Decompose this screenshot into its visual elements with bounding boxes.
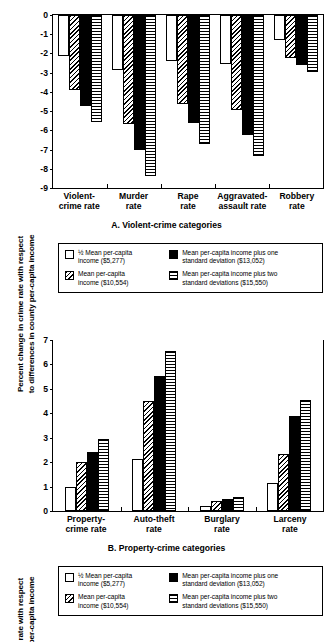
legend-label-line: income ($5,277) xyxy=(78,257,132,265)
bar-group xyxy=(269,15,323,188)
x-axis-category-labels-a: Violent-crime rateMurderrateRaperateAggr… xyxy=(52,191,324,211)
bar xyxy=(289,416,300,511)
legend-a: ½ Mean per-capitaincome ($5,277)Mean per… xyxy=(58,243,323,293)
bar-set xyxy=(107,15,161,176)
bar-group xyxy=(53,340,121,511)
group-separator-tick xyxy=(107,184,108,188)
category-label-line: Rape xyxy=(161,191,215,201)
category-label-line: crime rate xyxy=(52,524,120,534)
group-separator-tick xyxy=(121,507,122,511)
legend-item-mean: Mean per-capitaincome ($10,554) xyxy=(65,593,169,609)
category-label-line: crime rate xyxy=(52,201,106,211)
y-tick-label: 0 xyxy=(43,506,48,516)
legend-swatch-horizontal-hatch-icon xyxy=(169,271,178,280)
bar-set xyxy=(215,15,269,156)
bar xyxy=(80,15,91,106)
legend-swatch-horizontal-hatch-icon xyxy=(169,594,178,603)
bar xyxy=(220,15,231,64)
category-label: Property-crime rate xyxy=(52,514,120,534)
panel-caption-b: B. Property-crime categories xyxy=(0,543,333,553)
y-tick-label: 4 xyxy=(43,408,48,418)
legend-label: Mean per-capita income plus twostandard … xyxy=(182,593,277,609)
category-label-line: Murder xyxy=(106,191,160,201)
legend-swatch-white-icon xyxy=(65,573,74,582)
group-separator-tick xyxy=(188,507,189,511)
bar xyxy=(307,15,318,72)
legend-swatch-diagonal-hatch-icon xyxy=(65,271,74,280)
bar xyxy=(132,459,143,511)
bar-group xyxy=(121,340,189,511)
legend-label-line: Mean per-capita income plus two xyxy=(182,593,277,601)
legend-label-line: ½ Mean per-capita xyxy=(78,572,132,580)
category-label-line: Property- xyxy=(52,514,120,524)
y-tick-label: 6 xyxy=(43,359,48,369)
bar xyxy=(76,462,87,511)
bar-set xyxy=(53,15,107,122)
figure-root: Percent change in crime rate with respec… xyxy=(0,0,333,642)
bar-group xyxy=(256,340,324,511)
legend-label: ½ Mean per-capitaincome ($5,277) xyxy=(78,249,132,265)
legend-item-plus-one-sd: Mean per-capita income plus onestandard … xyxy=(169,572,318,588)
bar-set xyxy=(53,439,121,511)
bar xyxy=(58,15,69,56)
bar-group xyxy=(161,15,215,188)
bar xyxy=(134,15,145,150)
bar xyxy=(278,454,289,511)
bar-set xyxy=(256,400,324,511)
legend-label-line: income ($5,277) xyxy=(78,580,132,588)
category-label-line: rate xyxy=(188,524,256,534)
category-label: Violent-crime rate xyxy=(52,191,106,211)
bar xyxy=(233,497,244,511)
bar-set xyxy=(161,15,215,144)
bar xyxy=(211,501,222,511)
legend-column-right-a: Mean per-capita income plus onestandard … xyxy=(169,249,318,287)
category-label: Murderrate xyxy=(106,191,160,211)
category-label-line: assault rate xyxy=(215,201,269,211)
legend-label-line: Mean per-capita income plus one xyxy=(182,249,278,257)
y-tick-label: 5 xyxy=(43,384,48,394)
bar-groups-property-crime xyxy=(53,340,323,511)
legend-column-right-b: Mean per-capita income plus onestandard … xyxy=(169,572,318,610)
bar-set xyxy=(121,351,189,511)
bar xyxy=(242,15,253,135)
bar xyxy=(166,15,177,61)
y-tick-label: -2 xyxy=(40,48,48,58)
bar xyxy=(145,15,156,176)
plot-area-violent-crime: 0-1-2-3-4-5-6-7-8-9 xyxy=(52,14,324,189)
y-tick-mark xyxy=(50,188,54,189)
y-tick-mark xyxy=(50,511,54,512)
group-separator-tick xyxy=(161,184,162,188)
legend-item-plus-one-sd: Mean per-capita income plus onestandard … xyxy=(169,249,318,265)
bar xyxy=(69,15,80,90)
bar-set xyxy=(188,497,256,511)
chart-panel-property-crime: Percent change in crime rate with respec… xyxy=(0,330,333,642)
category-label: Burglaryrate xyxy=(188,514,256,534)
x-axis-category-labels-b: Property-crime rateAuto-theftrateBurglar… xyxy=(52,514,324,534)
legend-label-line: standard deviation ($13,052) xyxy=(182,257,278,265)
bar-group xyxy=(53,15,107,188)
legend-label-line: Mean per-capita income plus one xyxy=(182,572,278,580)
bar-group xyxy=(215,15,269,188)
category-label-line: Violent- xyxy=(52,191,106,201)
y-tick-label: 7 xyxy=(43,335,48,345)
legend-item-mean: Mean per-capitaincome ($10,554) xyxy=(65,270,169,286)
legend-item-plus-two-sd: Mean per-capita income plus twostandard … xyxy=(169,593,318,609)
category-label-line: Robbery xyxy=(270,191,324,201)
category-label: Larcenyrate xyxy=(256,514,324,534)
y-axis-label-b: Percent change in crime rate with respec… xyxy=(16,556,37,642)
group-separator-tick xyxy=(269,184,270,188)
y-tick-label: -9 xyxy=(40,183,48,193)
legend-label: ½ Mean per-capitaincome ($5,277) xyxy=(78,572,132,588)
category-label-line: Aggravated- xyxy=(215,191,269,201)
bar xyxy=(274,15,285,40)
bar xyxy=(188,15,199,123)
legend-swatch-diagonal-hatch-icon xyxy=(65,594,74,603)
bar xyxy=(267,483,278,511)
bar xyxy=(300,400,311,511)
legend-label-line: standard deviations ($15,550) xyxy=(182,279,277,287)
category-label-line: rate xyxy=(120,524,188,534)
y-tick-label: -1 xyxy=(40,29,48,39)
bar xyxy=(296,15,307,65)
y-tick-label: -7 xyxy=(40,145,48,155)
bar-group xyxy=(188,340,256,511)
